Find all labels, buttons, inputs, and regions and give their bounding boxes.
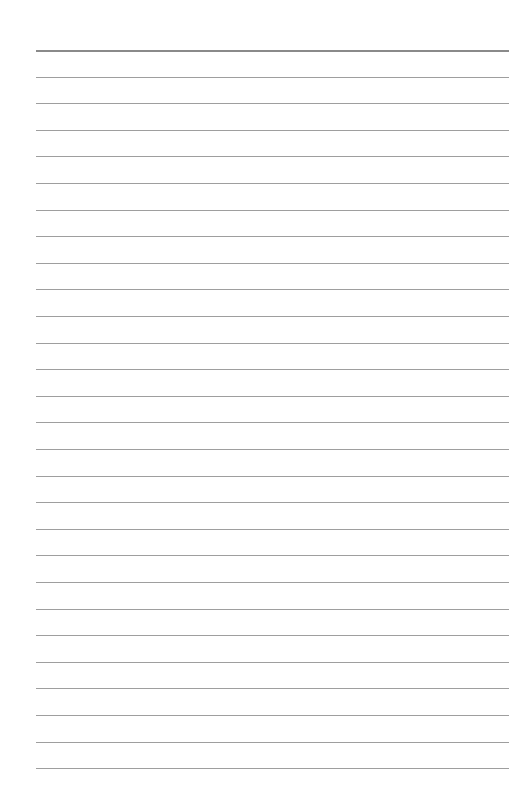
rule-line (36, 316, 509, 317)
rule-line (36, 396, 509, 397)
lined-paper-page (0, 0, 513, 793)
rule-line (36, 343, 509, 344)
rule-line (36, 715, 509, 716)
rule-line (36, 529, 509, 530)
rule-line (36, 263, 509, 264)
rule-line (36, 502, 509, 503)
rule-line (36, 609, 509, 610)
rule-line (36, 156, 509, 157)
rule-line (36, 210, 509, 211)
rule-line (36, 289, 509, 290)
rule-line (36, 183, 509, 184)
rule-line (36, 103, 509, 104)
rule-line (36, 422, 509, 423)
header-rule (36, 50, 509, 52)
rule-line (36, 635, 509, 636)
rule-line (36, 555, 509, 556)
rule-line (36, 476, 509, 477)
rule-line (36, 449, 509, 450)
rule-line (36, 130, 509, 131)
rule-line (36, 77, 509, 78)
rule-line (36, 768, 509, 769)
rule-line (36, 688, 509, 689)
rule-line (36, 236, 509, 237)
rule-line (36, 369, 509, 370)
rule-line (36, 662, 509, 663)
rule-line (36, 742, 509, 743)
rule-line (36, 582, 509, 583)
